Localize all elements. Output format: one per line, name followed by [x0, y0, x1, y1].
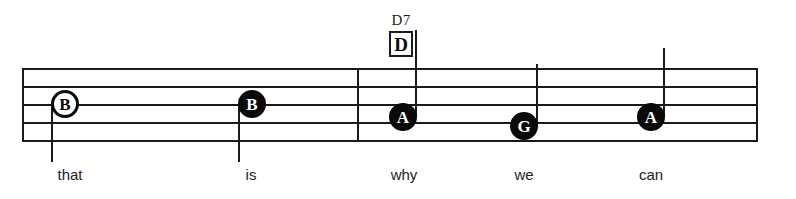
note-stem-5	[663, 48, 665, 117]
note-stem-1	[51, 104, 53, 162]
barline-measure-2	[357, 68, 359, 142]
note-head-4[interactable]: G	[510, 112, 538, 140]
lyric-why: why	[391, 166, 418, 183]
staff-line-1	[22, 68, 758, 70]
note-stem-3	[415, 30, 417, 117]
chord-symbol-d7: D7 D	[389, 13, 413, 57]
note-stem-2	[238, 104, 240, 162]
barline-end	[756, 68, 758, 142]
staff-line-2	[22, 86, 758, 88]
lyric-we: we	[514, 166, 533, 183]
chord-name-label: D7	[392, 13, 411, 28]
music-notation-staff: D7 D B B A G A that is why we can	[0, 0, 796, 199]
note-head-1[interactable]: B	[51, 90, 79, 118]
note-head-5[interactable]: A	[637, 103, 665, 131]
note-head-3[interactable]: A	[389, 103, 417, 131]
lyric-is: is	[246, 166, 257, 183]
staff-line-5	[22, 140, 758, 142]
lyric-can: can	[639, 166, 663, 183]
note-stem-4	[536, 64, 538, 126]
barline-start	[22, 68, 24, 142]
chord-box-label: D	[389, 31, 413, 57]
note-head-2[interactable]: B	[238, 90, 266, 118]
lyric-that: that	[57, 166, 82, 183]
